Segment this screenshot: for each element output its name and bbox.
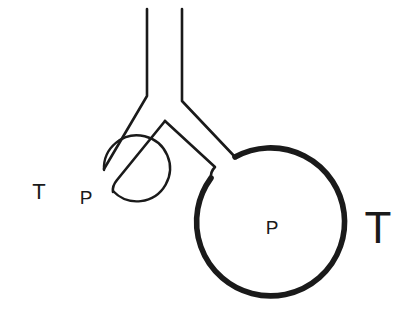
airway-left-outer-wall [104, 9, 147, 169]
diagram-canvas: P T P T [0, 0, 413, 324]
airway-left-inner-wall [113, 121, 165, 192]
small-alveolus-pressure-label: P [80, 187, 93, 208]
airway-right-outer-wall [182, 9, 236, 158]
small-alveolus-tension-label: T [32, 179, 45, 204]
alveoli-diagram: P T P T [0, 0, 413, 324]
large-alveolus-pressure-label: P [266, 217, 279, 238]
large-alveolus-tension-label: T [365, 203, 392, 252]
